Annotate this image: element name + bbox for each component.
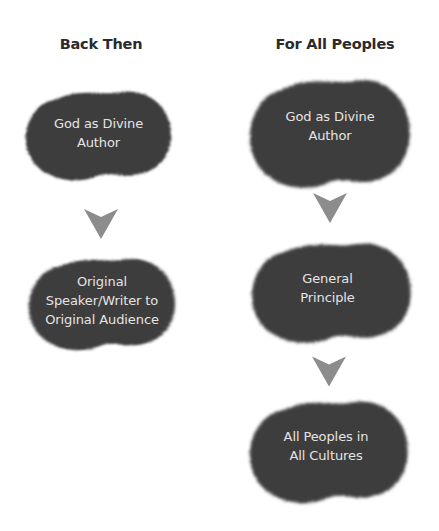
node-general-principle: General Principle [249, 236, 414, 346]
node-original-speaker-writer: Original Speaker/Writer to Original Audi… [26, 252, 178, 353]
column-heading-for-all-peoples: For All Peoples [268, 36, 402, 52]
node-label: All Peoples in All Cultures [284, 427, 369, 465]
node-label: Original Speaker/Writer to Original Audi… [45, 272, 159, 329]
down-arrow-icon [84, 209, 118, 239]
node-label: General Principle [300, 269, 355, 307]
node-label: God as Divine Author [285, 107, 374, 145]
down-arrow-icon [313, 193, 347, 223]
down-arrow-icon [312, 356, 346, 387]
node-god-as-divine-author-right: God as Divine Author [247, 72, 413, 191]
node-all-peoples-in-all-cultures: All Peoples in All Cultures [247, 394, 411, 506]
node-label: God as Divine Author [54, 114, 143, 152]
column-heading-back-then: Back Then [40, 36, 162, 52]
node-god-as-divine-author-left: God as Divine Author [23, 85, 174, 183]
